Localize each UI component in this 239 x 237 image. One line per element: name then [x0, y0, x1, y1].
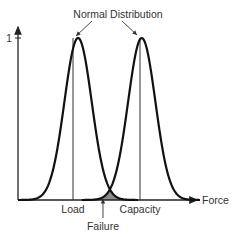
- title-pointer-capacity: [122, 21, 137, 35]
- y-tick-label: 1: [6, 33, 12, 44]
- x-axis-label: Force: [202, 194, 229, 206]
- load-label: Load: [61, 203, 85, 215]
- load-distribution-curve: [18, 38, 138, 200]
- failure-label: Failure: [87, 220, 119, 232]
- capacity-distribution-curve: [82, 38, 200, 200]
- normal-distribution-diagram: 1 Force Normal Distribution Load Capacit…: [0, 0, 239, 237]
- capacity-label: Capacity: [120, 203, 162, 215]
- title-pointer-load: [76, 21, 92, 36]
- diagram-title: Normal Distribution: [73, 8, 162, 20]
